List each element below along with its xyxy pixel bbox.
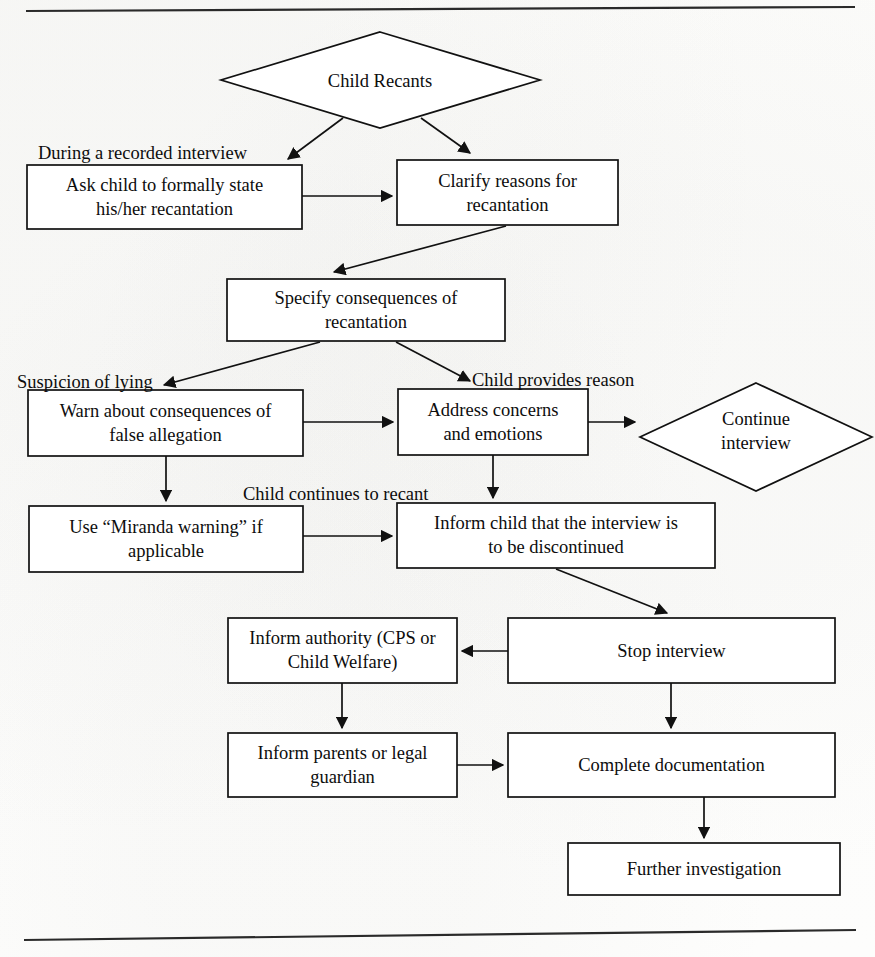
edge-label-during-recorded-interview: During a recorded interview <box>38 143 248 163</box>
flowchart-canvas: Child Recants Ask child to formally stat… <box>0 0 875 957</box>
node-inform-authority-line1: Inform authority (CPS or <box>249 628 436 649</box>
node-address-concerns-line2: and emotions <box>443 424 542 444</box>
edge-child-recants-to-clarify <box>421 118 470 153</box>
edge-clarify-to-specify <box>334 226 506 272</box>
node-warn-false-allegation-line1: Warn about consequences of <box>60 401 273 421</box>
edge-inform-discontinued-to-stop <box>556 569 667 613</box>
node-warn-false-allegation <box>28 390 303 456</box>
edge-label-child-continues-to-recant: Child continues to recant <box>243 484 429 504</box>
node-specify-consequences-line1: Specify consequences of <box>275 288 459 308</box>
node-continue-interview-line1: Continue <box>722 409 790 429</box>
edge-specify-to-address <box>396 342 470 381</box>
node-inform-parents-line2: guardian <box>310 767 375 787</box>
node-inform-discontinued-line2: to be discontinued <box>488 537 624 557</box>
node-child-recants-label: Child Recants <box>328 71 432 91</box>
node-ask-child-state-line1: Ask child to formally state <box>66 175 263 195</box>
node-continue-interview-line2: interview <box>721 433 792 453</box>
node-further-investigation-label: Further investigation <box>627 859 782 879</box>
node-inform-authority-line2: Child Welfare) <box>288 652 398 673</box>
node-clarify-reasons <box>397 160 618 225</box>
top-rule <box>26 7 855 11</box>
node-warn-false-allegation-line2: false allegation <box>109 425 222 445</box>
node-complete-documentation-label: Complete documentation <box>578 755 765 775</box>
node-clarify-reasons-line1: Clarify reasons for <box>438 171 577 191</box>
node-inform-parents-line1: Inform parents or legal <box>257 743 427 763</box>
edge-child-recants-to-ask-child <box>288 118 343 159</box>
node-stop-interview-label: Stop interview <box>617 641 726 661</box>
node-inform-discontinued-line1: Inform child that the interview is <box>434 513 678 533</box>
node-address-concerns <box>398 389 588 455</box>
node-specify-consequences-line2: recantation <box>325 312 407 332</box>
node-address-concerns-line1: Address concerns <box>428 400 559 420</box>
node-miranda-warning <box>29 506 303 572</box>
bottom-rule <box>24 930 856 940</box>
node-miranda-warning-line1: Use “Miranda warning” if <box>69 517 264 537</box>
edge-specify-to-warn <box>164 342 320 385</box>
edge-label-child-provides-reason: Child provides reason <box>472 370 634 390</box>
figure-page: Child Recants Ask child to formally stat… <box>0 0 875 957</box>
edge-label-suspicion-of-lying: Suspicion of lying <box>17 372 153 392</box>
node-ask-child-state-line2: his/her recantation <box>96 199 233 219</box>
node-miranda-warning-line2: applicable <box>128 541 204 561</box>
node-clarify-reasons-line2: recantation <box>466 195 548 215</box>
